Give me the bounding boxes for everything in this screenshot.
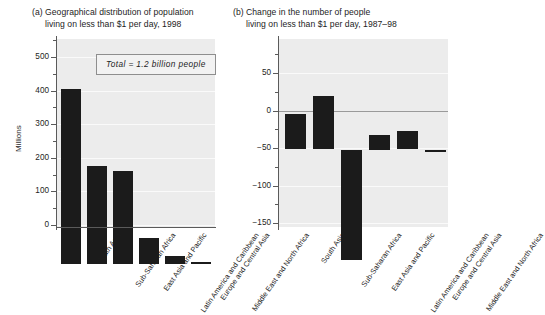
- panel-b-y-axis-spine: [278, 36, 279, 230]
- y-tick-mark: [51, 91, 56, 92]
- panel-b-plot-area: [279, 39, 448, 227]
- y-tick-label: 100: [19, 186, 49, 195]
- bar: [341, 150, 362, 260]
- y-tick-label: −50: [241, 143, 271, 152]
- panel-a-x-axis-baseline: [56, 227, 216, 228]
- y-minor-tick-mark: [53, 175, 56, 176]
- panel-b: (b)Change in the number of people living…: [228, 0, 461, 315]
- bar: [191, 262, 211, 264]
- y-tick-mark: [51, 225, 56, 226]
- y-tick-label: 50: [241, 68, 271, 77]
- y-tick-label: 0: [241, 106, 271, 115]
- bar: [425, 150, 446, 152]
- y-minor-tick-mark: [275, 167, 278, 168]
- y-tick-mark: [273, 148, 278, 149]
- y-minor-tick-mark: [53, 40, 56, 41]
- category-label: Latin America and Caribbean: [429, 231, 491, 314]
- panel-a-title: (a)Geographical distribution of populati…: [32, 7, 194, 30]
- panel-b-title-line1: Change in the number of people: [246, 7, 370, 17]
- panel-a-title-line1: Geographical distribution of population: [45, 7, 194, 17]
- y-minor-tick-mark: [53, 208, 56, 209]
- y-minor-tick-mark: [53, 74, 56, 75]
- y-tick-mark: [273, 223, 278, 224]
- y-minor-tick-mark: [275, 204, 278, 205]
- y-tick-mark: [273, 111, 278, 112]
- bar: [313, 96, 334, 149]
- y-tick-label: −150: [241, 218, 271, 227]
- panel-a-total-annotation: Total = 1.2 billion people: [96, 54, 216, 75]
- panel-b-title: (b)Change in the number of people living…: [233, 7, 397, 30]
- panel-a-tag: (a): [32, 7, 45, 19]
- panel-a-title-line2: living on less than $1 per day, 1998: [32, 19, 194, 31]
- gridline: [279, 223, 448, 224]
- bar: [61, 89, 81, 264]
- panel-b-tag: (b): [233, 7, 246, 19]
- y-minor-tick-mark: [275, 92, 278, 93]
- y-tick-mark: [51, 57, 56, 58]
- y-tick-label: −100: [241, 181, 271, 190]
- panel-b-title-line2: living on less than $1 per day, 1987–98: [233, 19, 397, 31]
- y-tick-label: 200: [19, 153, 49, 162]
- bar: [369, 135, 390, 150]
- y-tick-mark: [51, 191, 56, 192]
- gridline: [279, 73, 448, 74]
- y-tick-label: 0: [19, 220, 49, 229]
- y-tick-label: 400: [19, 86, 49, 95]
- gridline: [279, 186, 448, 187]
- y-tick-mark: [51, 124, 56, 125]
- bar: [397, 131, 418, 150]
- y-tick-label: 500: [19, 52, 49, 61]
- y-minor-tick-mark: [275, 129, 278, 130]
- y-tick-mark: [273, 186, 278, 187]
- y-minor-tick-mark: [275, 54, 278, 55]
- y-minor-tick-mark: [53, 107, 56, 108]
- panel-a: (a)Geographical distribution of populati…: [0, 0, 228, 315]
- gridline: [279, 111, 448, 112]
- panel-a-y-axis-label: Millions: [14, 125, 23, 152]
- y-tick-mark: [51, 158, 56, 159]
- y-tick-mark: [273, 73, 278, 74]
- bar: [113, 171, 133, 264]
- y-minor-tick-mark: [53, 141, 56, 142]
- y-tick-label: 300: [19, 119, 49, 128]
- bar: [285, 114, 306, 149]
- panel-a-y-axis-spine: [56, 36, 57, 230]
